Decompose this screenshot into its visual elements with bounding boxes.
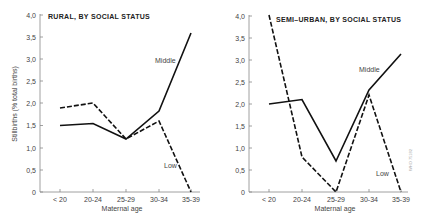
rural-chart: Stillbirths (% total births) RURAL, BY S…	[11, 12, 200, 214]
x-axis-title: Maternal age	[102, 205, 143, 213]
svg-text:2,5: 2,5	[26, 78, 36, 85]
label-middle-rural: Middle	[155, 57, 176, 64]
svg-text:30-34: 30-34	[150, 196, 168, 203]
svg-text:35-39: 35-39	[182, 196, 200, 203]
svg-text:25-29: 25-29	[327, 196, 345, 203]
svg-text:1,0: 1,0	[235, 145, 245, 152]
svg-text:1,5: 1,5	[26, 122, 36, 129]
label-middle-semi-urban: Middle	[359, 66, 380, 73]
svg-text:3,0: 3,0	[26, 56, 36, 63]
label-low-rural: Low	[164, 162, 178, 169]
svg-text:35-39: 35-39	[392, 196, 410, 203]
series-middle-rural	[60, 33, 191, 139]
y-ticks: 0 0,5 1,0 1,5 2,0 2,5 3,0 3,5 4,0	[235, 13, 252, 196]
svg-text:1,0: 1,0	[26, 145, 36, 152]
svg-text:20-24: 20-24	[293, 196, 311, 203]
svg-text:0,5: 0,5	[26, 167, 36, 174]
series-middle-semi-urban	[269, 54, 401, 161]
svg-text:4,0: 4,0	[235, 13, 245, 20]
figure-code: WHO 75182	[408, 148, 413, 171]
svg-text:2,0: 2,0	[26, 100, 36, 107]
series-low-rural	[60, 103, 191, 192]
y-ticks: 0 0,5 1,0 1,5 2,0 2,5 3,0 3,5 4,0	[26, 12, 43, 196]
svg-text:30-34: 30-34	[360, 196, 378, 203]
label-low-semi-urban: Low	[376, 170, 390, 177]
svg-text:0,5: 0,5	[235, 167, 245, 174]
svg-text:2,0: 2,0	[235, 101, 245, 108]
series-low-semi-urban	[269, 15, 401, 192]
chart-title-rural: RURAL, BY SOCIAL STATUS	[48, 13, 150, 21]
svg-text:< 20: < 20	[53, 196, 67, 203]
x-axis-title: Maternal age	[315, 205, 356, 213]
svg-text:0: 0	[32, 189, 36, 196]
svg-text:1,5: 1,5	[235, 123, 245, 130]
svg-text:3,5: 3,5	[26, 34, 36, 41]
x-ticks: < 20 20-24 25-29 30-34 35-39	[53, 189, 200, 203]
svg-text:2,5: 2,5	[235, 79, 245, 86]
svg-text:3,0: 3,0	[235, 57, 245, 64]
svg-text:20-24: 20-24	[84, 196, 102, 203]
svg-text:3,5: 3,5	[235, 35, 245, 42]
chart-title-semi-urban: SEMI–URBAN, BY SOCIAL STATUS	[276, 16, 401, 24]
svg-text:4,0: 4,0	[26, 12, 36, 19]
svg-text:< 20: < 20	[262, 196, 276, 203]
svg-text:25-29: 25-29	[117, 196, 135, 203]
y-axis-title: Stillbirths (% total births)	[11, 66, 19, 141]
svg-text:0: 0	[241, 189, 245, 196]
semi-urban-chart: SEMI–URBAN, BY SOCIAL STATUS 0 0,5 1,0 1…	[235, 13, 413, 214]
figure: Stillbirths (% total births) RURAL, BY S…	[0, 0, 431, 220]
